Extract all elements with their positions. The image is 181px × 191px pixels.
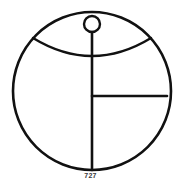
figure-caption: 727 [0,172,181,180]
line-diagram [0,0,181,191]
small-circle [84,16,100,32]
figure-container: 727 [0,0,181,191]
